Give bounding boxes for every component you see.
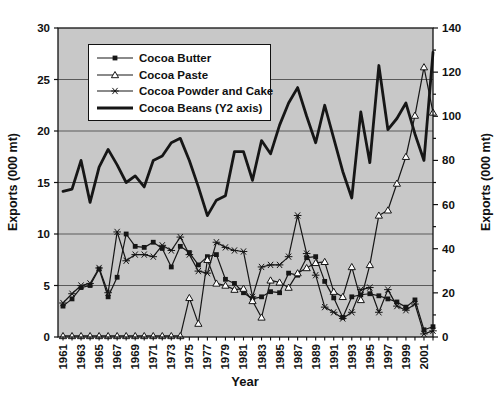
left-axis-title: Exports (000 mt) <box>6 133 20 231</box>
svg-text:1967: 1967 <box>111 344 123 370</box>
svg-text:1989: 1989 <box>310 344 322 370</box>
svg-text:0: 0 <box>44 331 50 343</box>
svg-text:10: 10 <box>37 228 50 240</box>
svg-text:30: 30 <box>37 22 50 34</box>
svg-text:80: 80 <box>442 154 455 166</box>
svg-text:20: 20 <box>442 287 455 299</box>
triangle-marker-icon <box>96 68 134 82</box>
square-marker-icon <box>96 51 134 65</box>
svg-text:1985: 1985 <box>274 343 286 369</box>
svg-text:1983: 1983 <box>256 344 268 370</box>
svg-text:1991: 1991 <box>328 343 340 369</box>
svg-text:1987: 1987 <box>292 344 304 370</box>
svg-text:0: 0 <box>442 331 448 343</box>
svg-text:1971: 1971 <box>147 343 159 369</box>
svg-text:1995: 1995 <box>364 343 376 369</box>
svg-text:1979: 1979 <box>219 344 231 370</box>
legend-label: Cocoa Powder and Cake <box>139 85 273 97</box>
legend: Cocoa Butter Cocoa Paste Cocoa Powder an… <box>88 44 271 121</box>
legend-label: Cocoa Butter <box>139 52 211 64</box>
svg-text:1999: 1999 <box>400 344 412 370</box>
svg-text:40: 40 <box>442 243 455 255</box>
thick-line-icon <box>96 101 134 115</box>
svg-text:1981: 1981 <box>237 343 249 369</box>
svg-text:1977: 1977 <box>201 344 213 370</box>
svg-text:1997: 1997 <box>382 344 394 370</box>
svg-text:1965: 1965 <box>93 343 105 369</box>
svg-text:20: 20 <box>37 125 50 137</box>
svg-text:25: 25 <box>37 74 50 86</box>
svg-text:1973: 1973 <box>165 344 177 370</box>
chart: 0510152025300204060801001201401961196319… <box>0 0 501 402</box>
svg-text:1963: 1963 <box>75 344 87 370</box>
x-axis-title: Year <box>231 374 258 389</box>
legend-item-cocoa-beans: Cocoa Beans (Y2 axis) <box>96 100 264 117</box>
right-axis-title: Exports (000 mt) <box>479 133 493 231</box>
svg-text:15: 15 <box>37 177 50 189</box>
legend-item-cocoa-paste: Cocoa Paste <box>96 67 264 84</box>
svg-text:120: 120 <box>442 66 461 78</box>
svg-text:1961: 1961 <box>57 343 69 369</box>
svg-text:1975: 1975 <box>183 343 195 369</box>
svg-text:100: 100 <box>442 110 461 122</box>
star-marker-icon <box>96 84 134 98</box>
svg-text:1993: 1993 <box>346 344 358 370</box>
svg-text:60: 60 <box>442 199 455 211</box>
legend-label: Cocoa Paste <box>139 69 208 81</box>
svg-text:140: 140 <box>442 22 461 34</box>
svg-text:1969: 1969 <box>129 344 141 370</box>
legend-label: Cocoa Beans (Y2 axis) <box>139 102 262 114</box>
svg-text:2001: 2001 <box>418 343 430 369</box>
svg-text:5: 5 <box>44 280 51 292</box>
legend-item-cocoa-powder: Cocoa Powder and Cake <box>96 83 264 100</box>
legend-item-cocoa-butter: Cocoa Butter <box>96 50 264 67</box>
